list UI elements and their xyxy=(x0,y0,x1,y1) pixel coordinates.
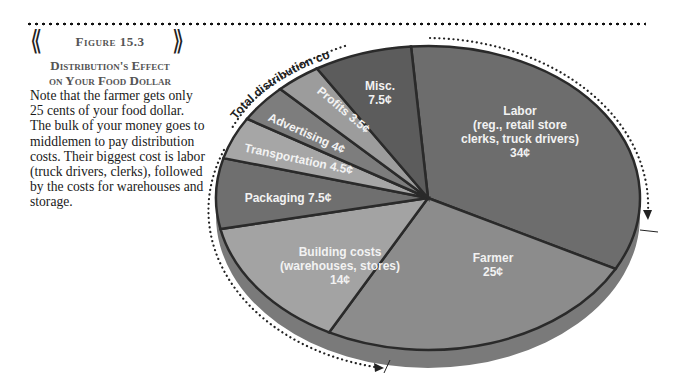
pie-chart: Labor(reg., retail storeclerks, truck dr… xyxy=(0,0,686,373)
tick-mark xyxy=(640,230,658,232)
slice-label: Misc.7.5¢ xyxy=(365,79,395,107)
slice-label: Packaging 7.5¢ xyxy=(245,191,332,205)
pie-slices xyxy=(216,46,640,368)
arrow-head-icon xyxy=(643,210,652,220)
